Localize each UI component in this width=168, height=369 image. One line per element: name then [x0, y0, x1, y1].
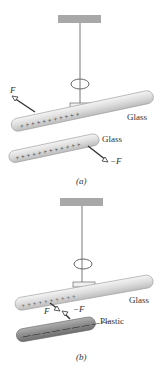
- force-label-bottom-a: −F: [110, 156, 122, 166]
- material-label-top-a: Glass: [127, 112, 147, 122]
- force-label-top-a: F: [10, 85, 16, 95]
- panel-a: + + + + + + + + + + + + + + + + + + + + …: [8, 15, 155, 164]
- panel-b: + + + + + + + + + + — — — — — — — — —: [14, 198, 154, 343]
- force-label-top-b: F: [44, 306, 50, 316]
- force-arrow-bottom: [88, 146, 106, 160]
- material-label-bottom-a: Glass: [102, 134, 122, 144]
- ceiling-support: [60, 198, 103, 206]
- rotation-arrow-icon: [74, 259, 92, 269]
- caption-a: (a): [76, 176, 87, 186]
- ceiling-support: [58, 15, 101, 23]
- svg-text:— — — — — — — — —: — — — — — — — — —: [21, 316, 111, 340]
- plastic-rod: — — — — — — — — —: [15, 313, 111, 342]
- force-label-bottom-b: −F: [73, 304, 85, 314]
- bottom-glass-rod: + + + + + + + + + + + +: [8, 133, 100, 164]
- force-arrow-top: [14, 98, 35, 112]
- material-label-bottom-b: Plastic: [100, 316, 124, 326]
- top-glass-rod: + + + + + + + + + + +: [10, 90, 155, 133]
- material-label-top-b: Glass: [129, 295, 149, 305]
- caption-b: (b): [76, 352, 87, 362]
